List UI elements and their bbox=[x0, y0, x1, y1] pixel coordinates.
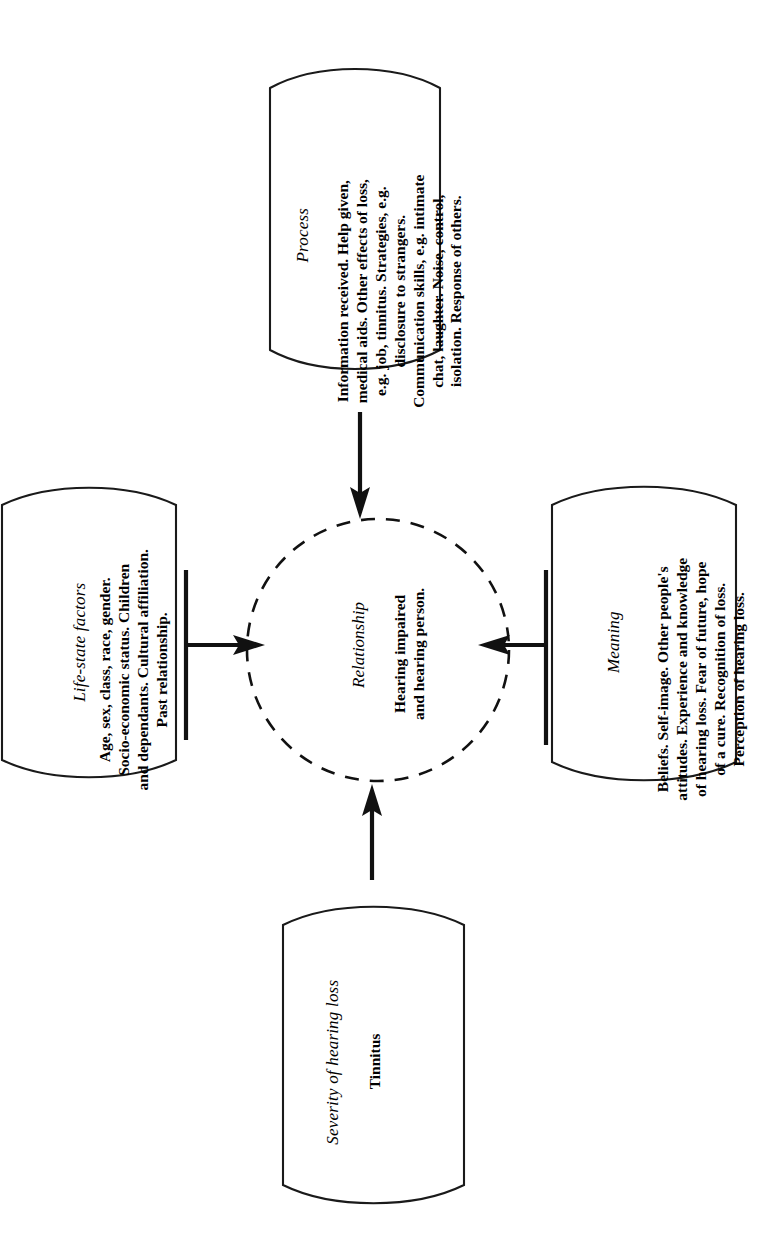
node-title-meaning: Meaning bbox=[604, 557, 624, 727]
node-body-severity-of-hearing-loss: Tinnitus bbox=[366, 986, 385, 1136]
center-dashed-circle bbox=[247, 519, 509, 781]
node-body-meaning: Beliefs. Self-image. Other people's atti… bbox=[654, 524, 749, 834]
diagram-canvas: Process Information received. Help given… bbox=[0, 0, 757, 1243]
center-title: Relationship bbox=[349, 555, 369, 735]
node-body-life-state-factors: Age, sex, class, race, gender. Socio-eco… bbox=[96, 520, 172, 820]
node-body-process: Information received. Help given, medica… bbox=[334, 141, 466, 441]
node-title-severity-of-hearing-loss: Severity of hearing loss bbox=[323, 942, 343, 1182]
node-title-life-state-factors: Life-state factors bbox=[70, 542, 90, 742]
center-body: Hearing impaired and hearing person. bbox=[391, 564, 429, 744]
node-title-process: Process bbox=[293, 155, 313, 315]
